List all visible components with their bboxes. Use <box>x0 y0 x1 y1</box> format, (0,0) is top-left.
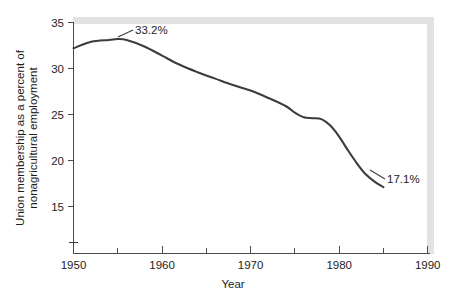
annotation-end-leader <box>370 170 385 179</box>
series-line-union-membership <box>74 39 384 187</box>
y-axis: 35 30 25 20 15 <box>51 17 78 254</box>
annotation-peak-label: 33.2% <box>135 24 168 36</box>
annotation-end-label: 17.1% <box>387 173 420 185</box>
frame-shadow-right <box>427 17 434 254</box>
x-tick-label-1980: 1980 <box>326 259 352 271</box>
x-tick-label-1960: 1960 <box>149 259 175 271</box>
frame-shadow-top <box>73 17 434 24</box>
y-tick-label-35: 35 <box>51 17 64 29</box>
annotation-peak-leader <box>118 30 133 37</box>
y-axis-title-line2: nonagricultural employment <box>27 67 39 209</box>
x-axis-title: Year <box>221 278 244 290</box>
y-axis-title: Union membership as a percent of nonagri… <box>14 49 39 226</box>
line-chart-svg: 35 30 25 20 15 Union membership as a per… <box>0 0 462 299</box>
annotation-peak: 33.2% <box>118 24 168 37</box>
x-tick-label-1970: 1970 <box>238 259 264 271</box>
chart-figure: 35 30 25 20 15 Union membership as a per… <box>0 0 462 299</box>
y-tick-label-20: 20 <box>51 155 64 167</box>
y-tick-label-15: 15 <box>51 201 64 213</box>
frame-shadow <box>73 17 434 254</box>
x-axis: 1950 1960 1970 1980 1990 <box>61 246 441 271</box>
x-tick-label-1990: 1990 <box>415 259 441 271</box>
y-tick-label-25: 25 <box>51 109 64 121</box>
y-tick-label-30: 30 <box>51 63 64 75</box>
x-tick-label-1950: 1950 <box>61 259 87 271</box>
y-axis-title-line1: Union membership as a percent of <box>14 49 26 226</box>
